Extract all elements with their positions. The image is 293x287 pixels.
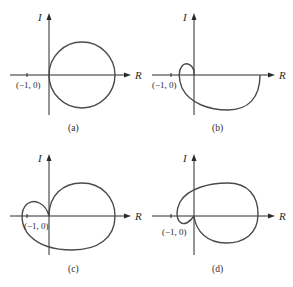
critical-point-label: (−1, 0) [152,80,177,90]
arrow-right-icon [268,73,275,78]
arrow-up-icon [47,13,52,20]
arrow-up-icon [47,154,52,161]
critical-point-label: (−1, 0) [24,221,49,231]
arrow-right-icon [124,214,131,219]
arrow-up-icon [192,13,197,20]
critical-point-label: (−1, 0) [16,80,41,90]
arrow-right-icon [268,214,275,219]
panel-a: I R (−1, 0) (a) [10,11,142,134]
arrow-up-icon [192,154,197,161]
imaginary-axis-label: I [182,152,188,164]
arrow-right-icon [124,73,131,78]
panel-caption: (c) [68,264,79,275]
panel-b: I R (−1, 0) (b) [152,11,286,134]
imaginary-axis-label: I [37,152,43,164]
panel-caption: (a) [68,123,79,134]
imaginary-axis-label: I [182,11,188,23]
nyquist-figure: I R (−1, 0) (a) I R (−1, 0) (b) I R (−1,… [0,0,293,287]
panel-caption: (d) [212,264,223,275]
nyquist-curve [177,183,258,243]
real-axis-label: R [278,69,286,81]
real-axis-label: R [278,210,286,222]
nyquist-curve [179,64,260,110]
panel-d: I R (−1, 0) (d) [152,152,286,275]
panel-c: I R (−1, 0) (c) [10,152,142,275]
critical-point-label: (−1, 0) [162,227,187,237]
real-axis-label: R [134,210,142,222]
imaginary-axis-label: I [37,11,43,23]
real-axis-label: R [134,69,142,81]
panel-caption: (b) [212,123,223,134]
